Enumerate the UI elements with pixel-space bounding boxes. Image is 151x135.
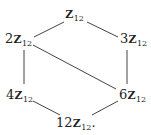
node-ring: Z	[14, 87, 23, 102]
edge-6z12-12z12	[92, 101, 118, 115]
node-3z12: 3Z12	[120, 32, 147, 51]
node-subscript: 12	[81, 123, 91, 132]
ideal-lattice-diagram: Z12 2Z12 3Z12 4Z12 6Z12 12Z12.	[0, 0, 151, 135]
edge-4z12-12z12	[33, 101, 60, 115]
node-ring: Z	[128, 31, 137, 46]
node-ring: Z	[65, 6, 74, 21]
node-6z12: 6Z12	[119, 88, 146, 107]
edge-2z12-6z12	[33, 45, 116, 89]
node-subscript: 12	[137, 39, 147, 48]
node-subscript: 12	[22, 39, 32, 48]
node-z12: Z12	[65, 7, 84, 26]
edge-z12-2z12	[34, 22, 64, 37]
node-subscript: 12	[23, 95, 33, 104]
node-coefficient: 12	[56, 115, 73, 130]
node-ring: Z	[73, 115, 82, 130]
node-suffix: .	[91, 115, 95, 130]
node-subscript: 12	[74, 14, 84, 23]
edge-z12-3z12	[87, 22, 118, 37]
node-12z12: 12Z12.	[56, 116, 96, 135]
node-subscript: 12	[136, 95, 146, 104]
node-ring: Z	[127, 87, 136, 102]
node-4z12: 4Z12	[6, 88, 33, 107]
node-2z12: 2Z12	[5, 32, 32, 51]
node-ring: Z	[13, 31, 22, 46]
